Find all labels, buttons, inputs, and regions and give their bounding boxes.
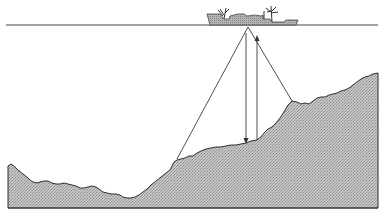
ship-hull	[207, 14, 298, 25]
sonar-diagram	[0, 0, 384, 217]
beam-right-outer	[248, 27, 292, 101]
seabed-terrain	[8, 73, 378, 208]
diagram-svg	[0, 0, 384, 217]
ship	[207, 6, 298, 25]
beam-left-outer	[177, 27, 248, 159]
arrow-up-icon	[255, 35, 260, 41]
